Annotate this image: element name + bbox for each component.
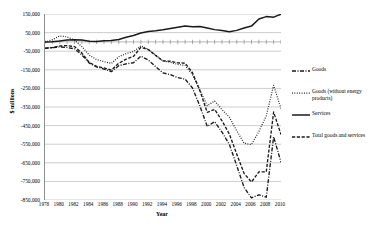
line-chart: $ millions 150,00050,000-50,000-150,000-…: [0, 0, 380, 236]
y-axis-tick-label: -150,000: [4, 67, 40, 73]
y-axis-tick-label: 150,000: [4, 11, 40, 17]
y-axis-tick-label: -550,000: [4, 141, 40, 147]
solid-line-key: [292, 111, 310, 120]
legend-item[interactable]: Goods: [292, 66, 380, 79]
chart-legend: GoodsGoods (without energy products)Serv…: [292, 66, 380, 154]
series-line: [45, 46, 281, 182]
y-axis-tick-label: -450,000: [4, 123, 40, 129]
legend-item-label: Goods: [312, 66, 326, 73]
x-axis-tick-label: 2010: [268, 201, 292, 208]
plot-area: [44, 14, 280, 200]
series-line: [45, 14, 281, 42]
dashed-line-key: [292, 133, 310, 142]
y-axis-tick-label: -250,000: [4, 85, 40, 91]
legend-item[interactable]: Services: [292, 110, 380, 123]
x-axis-tick-labels: 1978198019821984198619881990199219941996…: [44, 201, 280, 211]
dash-dot-line-key: [292, 67, 310, 76]
legend-item[interactable]: Goods (without energy products): [292, 88, 380, 101]
series-line: [45, 36, 281, 145]
legend-item[interactable]: Total goods and services: [292, 132, 380, 145]
legend-item-label: Total goods and services: [312, 132, 365, 139]
y-axis-tick-label: -350,000: [4, 104, 40, 110]
dotted-line-key: [292, 89, 310, 98]
y-axis-tick-label: 50,000: [4, 30, 40, 36]
y-axis-tick-label: -50,000: [4, 48, 40, 54]
x-axis-title: Year: [44, 211, 280, 217]
y-axis-tick-label: -750,000: [4, 178, 40, 184]
y-axis-tick-label: -650,000: [4, 160, 40, 166]
plot-svg: [45, 14, 281, 200]
legend-item-label: Services: [312, 110, 330, 117]
legend-item-label: Goods (without energy products): [312, 88, 380, 101]
